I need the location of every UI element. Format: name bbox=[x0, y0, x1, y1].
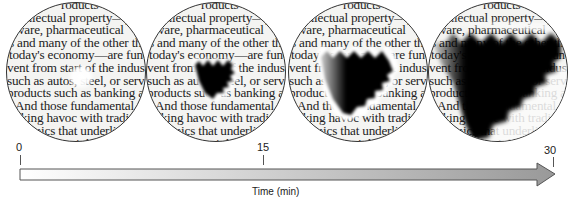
axis-label: Time (min) bbox=[252, 186, 299, 197]
time-arrow bbox=[0, 0, 573, 206]
